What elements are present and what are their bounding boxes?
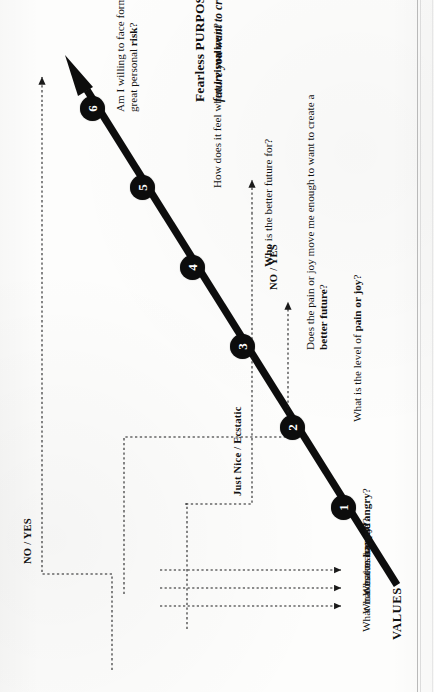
page-edge-line-2 [420, 0, 421, 692]
values-question-angry-post: ? [360, 488, 372, 493]
step-node-4[interactable]: 4 [180, 255, 205, 280]
branch-label-no-yes-lower: NO / YES [268, 244, 281, 290]
step-question-5-bold: visualize [211, 37, 223, 78]
step-question-6: Am I willing to face formidable resistan… [100, 0, 141, 112]
step-question-5: How does it feel when I visualize it? [197, 0, 224, 188]
step-question-3-post: ? [317, 284, 329, 289]
values-question-angry: What makes me angry? [346, 416, 373, 596]
step-question-2-bold: pain or joy [351, 280, 363, 332]
step-question-2-post: ? [351, 275, 363, 280]
values-question-angry-bold: angry [360, 493, 372, 521]
values-question-angry-pre: What makes me [360, 521, 372, 596]
step-question-5-post: it? [211, 23, 223, 37]
step-question-4-post: is the better future for? [262, 139, 274, 244]
values-axis-label: VALUES [390, 587, 405, 640]
feedback-loop-5-to-6 [185, 180, 252, 629]
diagram-artboard: 1 2 3 4 5 6 Fearless PURPOSE – The bette… [0, 0, 434, 692]
step-question-2-pre: What is the level of [351, 332, 363, 422]
page-edge-line-1 [417, 0, 418, 692]
step-question-6-bold2: risk [127, 27, 139, 46]
step-node-5[interactable]: 5 [130, 175, 155, 200]
feedback-loop-6-to-purpose [42, 77, 112, 670]
step-question-6-pre: Am I willing to face formidable [114, 0, 126, 112]
step-question-2: What is the level of pain or joy? [337, 212, 364, 422]
step-question-5-pre: How does it feel when I [211, 78, 223, 188]
branch-label-just-nice-ecstatic: Just Nice / Ecstatic [232, 406, 245, 496]
branch-label-no-yes-upper: NO / YES [22, 518, 35, 564]
step-question-3-bold: better future [317, 289, 329, 350]
step-question-3-pre: Does the pain or joy move me enough to w… [304, 95, 316, 350]
step-node-2[interactable]: 2 [280, 415, 305, 440]
step-question-6-post2: ? [127, 23, 139, 28]
step-question-3: Does the pain or joy move me enough to w… [290, 75, 331, 350]
page-edge-line-3 [432, 0, 433, 692]
step-question-4: Who is the better future for? [248, 67, 275, 267]
scanned-page: 1 2 3 4 5 6 Fearless PURPOSE – The bette… [0, 0, 434, 692]
feedback-loop-3-to-4 [124, 302, 288, 594]
step-node-3[interactable]: 3 [230, 334, 255, 359]
